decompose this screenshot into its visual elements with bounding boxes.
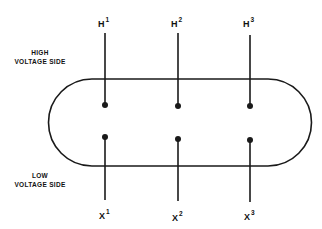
low-voltage-bushing-x3 <box>247 137 253 202</box>
terminal-h1-sup: 1 <box>106 16 110 23</box>
terminal-label-h3: H3 <box>243 17 254 29</box>
terminal-label-x3: X3 <box>244 210 255 222</box>
high-label-line1: HIGH <box>8 48 72 57</box>
high-voltage-bushing-h3 <box>247 35 253 109</box>
terminal-x3-base: X <box>244 212 250 222</box>
terminal-h3-base: H <box>243 19 250 29</box>
high-voltage-bushing-h1 <box>102 33 108 108</box>
terminal-label-h1: H1 <box>98 17 109 29</box>
transformer-tank-outline <box>49 79 312 166</box>
terminal-x2-sup: 2 <box>179 210 183 217</box>
low-voltage-bushing-x1 <box>102 134 108 200</box>
terminal-x3-sup: 3 <box>251 209 255 216</box>
terminal-label-x1: X1 <box>99 209 110 221</box>
high-voltage-bushing-h2 <box>175 33 181 109</box>
high-label-line2: VOLTAGE SIDE <box>8 57 72 66</box>
terminal-x1-base: X <box>99 211 105 221</box>
low-voltage-bushing-x2 <box>175 136 181 201</box>
low-voltage-side-label: LOW VOLTAGE SIDE <box>8 171 72 189</box>
terminal-h1-base: H <box>98 19 105 29</box>
terminal-h2-base: H <box>171 19 178 29</box>
terminal-h2-sup: 2 <box>179 16 183 23</box>
terminal-label-x2: X2 <box>172 211 183 223</box>
low-label-line2: VOLTAGE SIDE <box>8 180 72 189</box>
terminal-x1-sup: 1 <box>106 208 110 215</box>
transformer-diagram <box>0 0 322 229</box>
terminal-x2-base: X <box>172 213 178 223</box>
low-label-line1: LOW <box>8 171 72 180</box>
high-voltage-side-label: HIGH VOLTAGE SIDE <box>8 48 72 66</box>
terminal-h3-sup: 3 <box>251 16 255 23</box>
terminal-label-h2: H2 <box>171 17 182 29</box>
